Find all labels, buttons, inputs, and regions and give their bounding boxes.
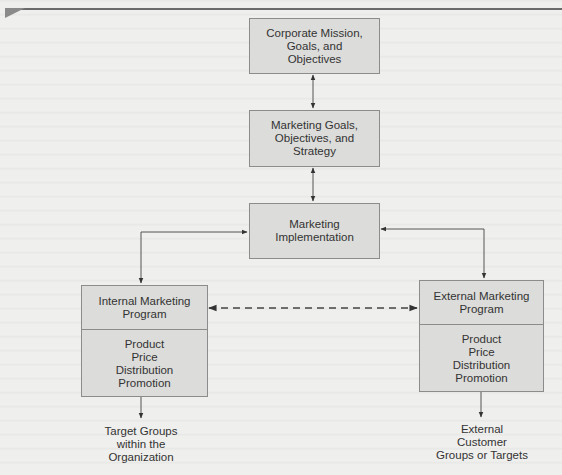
external-targets-line-1: External	[426, 423, 538, 436]
corporate-line-3: Objectives	[266, 53, 363, 66]
goals-line-2: Objectives, and	[271, 132, 358, 145]
internal-targets-line-1: Target Groups	[91, 425, 191, 438]
external-marketing-program-box: External Marketing Program Product Price…	[419, 280, 544, 392]
external-item-product: Product	[462, 333, 502, 346]
external-title-line-1: External Marketing	[434, 290, 530, 303]
internal-title-line-2: Program	[122, 308, 166, 321]
marketing-goals-box: Marketing Goals, Objectives, and Strateg…	[249, 110, 380, 167]
external-customer-groups-label: External Customer Groups or Targets	[426, 423, 538, 462]
implementation-line-2: Implementation	[275, 231, 354, 244]
external-item-distribution: Distribution	[453, 359, 511, 372]
external-program-mix: Product Price Distribution Promotion	[420, 325, 543, 385]
internal-targets-line-2: within the	[91, 438, 191, 451]
external-title-line-2: Program	[459, 303, 503, 316]
goals-line-3: Strategy	[271, 145, 358, 158]
internal-targets-line-3: Organization	[91, 451, 191, 464]
edge-implementation-external	[381, 229, 484, 278]
internal-item-distribution: Distribution	[116, 364, 174, 377]
edge-implementation-internal	[141, 232, 247, 283]
internal-item-price: Price	[131, 351, 157, 364]
internal-marketing-program-box: Internal Marketing Program Product Price…	[81, 285, 208, 397]
corporate-line-1: Corporate Mission,	[266, 27, 363, 40]
goals-line-1: Marketing Goals,	[271, 119, 358, 132]
external-item-price: Price	[468, 346, 494, 359]
internal-program-mix: Product Price Distribution Promotion	[82, 330, 207, 390]
external-targets-line-2: Customer	[426, 436, 538, 449]
internal-title-line-1: Internal Marketing	[98, 295, 190, 308]
internal-program-title: Internal Marketing Program	[82, 286, 207, 330]
internal-target-groups-label: Target Groups within the Organization	[91, 425, 191, 464]
corporate-mission-box: Corporate Mission, Goals, and Objectives	[249, 18, 380, 74]
internal-item-product: Product	[125, 338, 165, 351]
implementation-line-1: Marketing	[275, 218, 354, 231]
corporate-line-2: Goals, and	[266, 40, 363, 53]
marketing-implementation-box: Marketing Implementation	[249, 203, 380, 259]
internal-item-promotion: Promotion	[118, 377, 170, 390]
external-item-promotion: Promotion	[455, 372, 507, 385]
external-targets-line-3: Groups or Targets	[426, 449, 538, 462]
external-program-title: External Marketing Program	[420, 281, 543, 325]
